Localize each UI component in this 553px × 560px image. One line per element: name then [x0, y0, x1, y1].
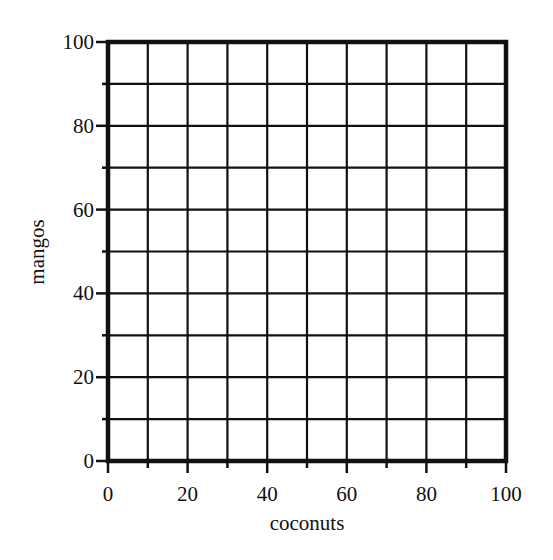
- y-tick-label: 40: [73, 281, 94, 305]
- x-tick-label: 60: [336, 482, 357, 506]
- x-tick-label: 100: [490, 482, 522, 506]
- y-axis-title: mangos: [25, 219, 49, 284]
- y-tick-label: 100: [63, 30, 95, 54]
- grid-lines: [108, 42, 506, 461]
- y-tick-label: 60: [73, 198, 94, 222]
- y-tick-label: 0: [84, 449, 95, 473]
- x-tick-label: 20: [177, 482, 198, 506]
- x-tick-label: 0: [103, 482, 114, 506]
- x-axis-title: coconuts: [270, 511, 345, 535]
- y-tick-label: 20: [73, 365, 94, 389]
- y-tick-labels: 020406080100: [63, 30, 95, 473]
- axis-ticks: [96, 42, 506, 473]
- x-tick-label: 80: [416, 482, 437, 506]
- x-tick-labels: 020406080100: [103, 482, 522, 506]
- y-tick-label: 80: [73, 114, 94, 138]
- chart: 020406080100 020406080100 coconuts mango…: [0, 0, 553, 560]
- x-tick-label: 40: [257, 482, 278, 506]
